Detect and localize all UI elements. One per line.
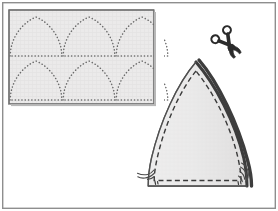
- fabric-panel: [9, 8, 168, 112]
- illustration-root: [0, 0, 278, 211]
- fabric-panel-surface: [9, 10, 154, 104]
- fabric-panel-shadow-right: [154, 12, 156, 106]
- sewing-illustration: [0, 0, 278, 211]
- fabric-panel-shadow-bottom: [11, 104, 156, 106]
